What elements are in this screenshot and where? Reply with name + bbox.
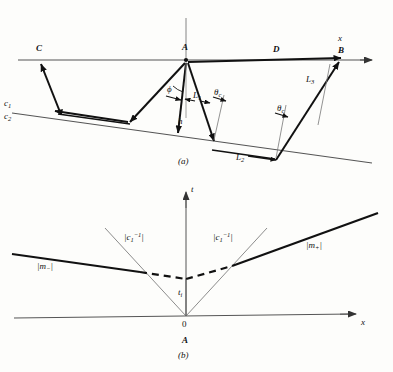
label-length-L3: L3: [306, 75, 314, 85]
label-velocity-c1: c1: [4, 99, 11, 109]
caption-panel-b: (b): [178, 350, 189, 360]
label-point-C: C: [36, 44, 42, 53]
figure-root: C A D B x c1 c2 ϕ L1 h θc θc L2 L3 (a) t…: [0, 0, 393, 372]
label-origin-zero: 0: [182, 320, 187, 329]
angle-phi-tick: [166, 96, 181, 100]
label-direct-slowness-right: |c1−1|: [213, 232, 233, 243]
figure-canvas: [0, 0, 393, 372]
label-slope-m-plus: |m+|: [306, 241, 322, 251]
ray-A-downgoing-right: [188, 63, 214, 141]
label-angle-theta-c-left: θc: [214, 88, 221, 98]
label-point-D: D: [273, 45, 280, 54]
panel-a-graphics: [12, 18, 372, 163]
label-length-L2: L2: [236, 153, 244, 163]
label-intercept-time: ti: [178, 288, 182, 298]
label-axis-x-top: x: [338, 34, 342, 43]
refraction-branch-left-dashed: [140, 272, 186, 279]
label-angle-phi: ϕ: [167, 85, 172, 94]
receiver-B-vertical-reference: [318, 64, 330, 125]
label-axis-t: t: [191, 185, 194, 194]
theta-c-left-reference-line: [214, 95, 224, 140]
label-angle-theta-c-right: θc: [277, 104, 284, 114]
panel-b-graphics: [12, 192, 378, 318]
label-point-A: A: [182, 43, 188, 52]
angle-phi-arc: [173, 86, 183, 92]
refraction-branch-left-solid: [12, 254, 140, 272]
ray-C-upgoing: [41, 64, 60, 112]
label-velocity-c2: c2: [4, 112, 11, 122]
point-A-marker: [184, 58, 188, 62]
tx-x-axis: [14, 314, 352, 318]
label-point-B: B: [338, 46, 344, 55]
caption-panel-a: (a): [178, 156, 189, 166]
ray-A-downgoing-left: [130, 63, 185, 122]
label-depth-h: h: [178, 117, 183, 126]
refraction-branch-right-dashed: [186, 266, 232, 279]
label-slope-m-minus: |m−|: [37, 262, 53, 272]
refractor-interface-line: [12, 113, 372, 163]
label-direct-slowness-left: |c1−1|: [124, 232, 144, 243]
label-length-L1: L1: [193, 91, 201, 101]
refraction-branch-right-solid: [232, 213, 378, 266]
ray-headwave-left-underline: [58, 114, 130, 124]
label-origin-point-A: A: [182, 336, 188, 345]
label-axis-x-bottom: x: [361, 318, 365, 327]
